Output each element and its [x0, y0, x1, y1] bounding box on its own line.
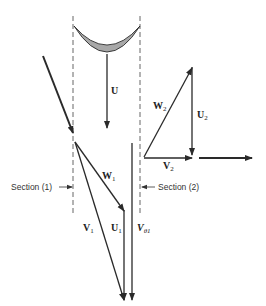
label-w1-sub: 1 [112, 175, 116, 183]
label-u2: U2 [197, 110, 208, 122]
label-u1: U1 [111, 223, 122, 235]
w2-arrow [144, 68, 192, 157]
label-w1: W1 [102, 171, 116, 183]
section-2-label: Section (2) [158, 183, 199, 192]
label-v-theta1-main: V [137, 222, 144, 233]
label-v-theta1: Vθ1 [137, 223, 151, 235]
blade-bucket-shape [74, 26, 140, 52]
label-u: U [111, 86, 118, 96]
label-w2-main: W [153, 100, 163, 111]
label-w1-main: W [102, 170, 112, 181]
label-u2-sub: 2 [204, 114, 208, 122]
label-u-main: U [111, 85, 118, 96]
label-v2-sub: 2 [170, 165, 174, 173]
label-v1-sub: 1 [90, 227, 94, 235]
label-w2-sub: 2 [163, 105, 167, 113]
label-v1: V1 [83, 223, 94, 235]
label-w2: W2 [153, 101, 167, 113]
section-1-label: Section (1) [11, 183, 52, 192]
label-u1-sub: 1 [118, 227, 122, 235]
velocity-triangle-diagram [0, 0, 266, 306]
inlet-jet-arrow [43, 56, 73, 133]
label-v2: V2 [163, 161, 174, 173]
w1-arrow [75, 142, 124, 211]
label-v-theta1-sub: θ1 [144, 227, 151, 235]
v1-arrow [75, 142, 124, 300]
